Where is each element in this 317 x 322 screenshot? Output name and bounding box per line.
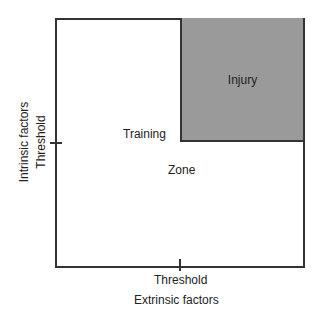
y-threshold-tick [50,142,62,144]
injury-region: Injury [180,18,303,142]
injury-label: Injury [182,73,303,87]
y-axis-title: Intrinsic factors [17,102,31,183]
zone-label: Zone [168,163,195,177]
x-axis-title: Extrinsic factors [134,293,219,307]
training-label: Training [123,127,166,141]
x-threshold-label: Threshold [154,273,207,287]
y-threshold-label: Threshold [34,115,48,168]
x-threshold-tick [179,259,181,271]
